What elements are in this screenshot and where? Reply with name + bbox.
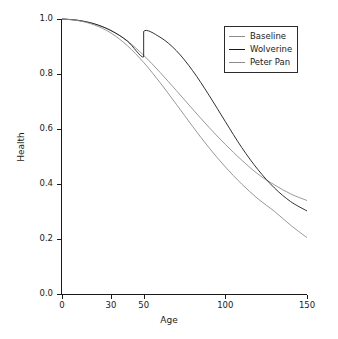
y-tick-label: 0.6	[39, 124, 53, 133]
y-tick-mark	[57, 184, 61, 185]
x-tick-mark	[111, 295, 112, 299]
y-tick-label: 0.4	[39, 179, 53, 188]
y-tick-mark	[57, 19, 61, 20]
chart-figure: 0.00.20.40.60.81.0 03050100150 Health Ag…	[0, 0, 338, 339]
x-tick-mark	[225, 295, 226, 299]
legend-line-swatch	[229, 49, 245, 50]
y-tick-label: 1.0	[39, 14, 53, 23]
legend-label-text: Baseline	[250, 32, 286, 41]
y-axis-label-text: Health	[16, 132, 26, 162]
y-tick-mark	[57, 129, 61, 130]
y-axis-label: Health	[14, 140, 28, 154]
y-tick-label: 0.2	[39, 234, 53, 243]
y-tick-mark	[57, 239, 61, 240]
y-tick-mark	[57, 74, 61, 75]
x-tick-mark	[307, 295, 308, 299]
x-tick-label: 100	[217, 301, 233, 310]
y-tick-label: 0.8	[39, 69, 53, 78]
x-axis-label-text: Age	[0, 315, 338, 325]
x-axis-spine	[61, 294, 307, 295]
x-tick-mark	[144, 295, 145, 299]
legend-label-text: Wolverine	[250, 45, 292, 54]
legend-entry[interactable]: Baseline	[229, 30, 292, 43]
y-tick-mark	[57, 294, 61, 295]
chart-legend: BaselineWolverinePeter Pan	[224, 26, 298, 73]
y-tick-label: 0.0	[39, 289, 53, 298]
x-tick-label: 0	[59, 301, 64, 310]
legend-line-swatch	[229, 62, 245, 63]
legend-label-text: Peter Pan	[250, 58, 290, 67]
x-tick-label: 150	[299, 301, 315, 310]
x-tick-mark	[62, 295, 63, 299]
x-tick-label: 50	[138, 301, 149, 310]
x-tick-label: 30	[106, 301, 117, 310]
legend-line-swatch	[229, 36, 245, 37]
legend-entry[interactable]: Wolverine	[229, 43, 292, 56]
legend-entry[interactable]: Peter Pan	[229, 56, 292, 69]
